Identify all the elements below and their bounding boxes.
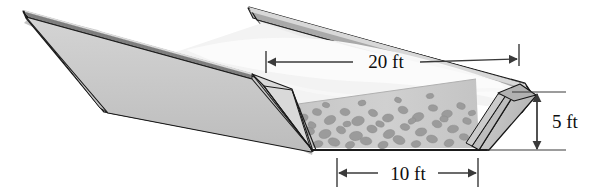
trough-body [22, 7, 536, 155]
dim-10ft-label: 10 ft [390, 163, 426, 184]
dimension-10ft: 10 ft [337, 158, 478, 187]
dim-5ft-label: 5 ft [552, 111, 579, 132]
dim-20ft-label: 20 ft [368, 51, 404, 72]
trough-diagram: 20 ft 10 ft 5 ft [0, 0, 603, 195]
figure-root: 20 ft 10 ft 5 ft [0, 0, 603, 195]
